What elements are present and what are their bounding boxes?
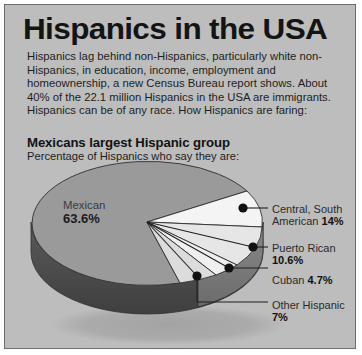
pie-label-puerto-rican-name: Puerto Rican xyxy=(272,242,336,254)
pie-label-other-hispanic: Other Hispanic 7% xyxy=(272,299,345,324)
callout-dot-central-south-american xyxy=(238,203,247,212)
callout-dot-cuban xyxy=(224,263,233,272)
pie-label-central-south-american: Central, South American 14% xyxy=(272,203,362,228)
pie-label-mexican: Mexican 63.6% xyxy=(63,199,105,226)
pie-label-cuban: Cuban 4.7% xyxy=(272,274,333,286)
pie-label-mexican-value: 63.6% xyxy=(63,211,100,226)
pie-label-puerto-rican-value: 10.6% xyxy=(272,254,303,266)
pie-label-mexican-name: Mexican xyxy=(63,199,105,211)
pie-chart: Mexican 63.6% Central, South American 14… xyxy=(0,0,362,355)
callout-dot-other-hispanic xyxy=(192,271,201,280)
pie-label-cuban-value: 4.7% xyxy=(307,274,332,286)
pie-label-other-hispanic-value: 7% xyxy=(272,311,288,323)
pie-label-puerto-rican: Puerto Rican 10.6% xyxy=(272,242,336,267)
callout-dot-puerto-rican xyxy=(248,242,257,251)
pie-label-other-hispanic-name: Other Hispanic xyxy=(272,299,345,311)
pie-label-central-south-american-value: 14% xyxy=(322,215,344,227)
pie-label-cuban-name: Cuban xyxy=(272,274,304,286)
